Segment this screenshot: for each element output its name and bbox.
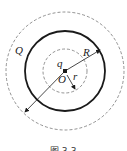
label-R: R <box>82 46 90 58</box>
label-Q: Q <box>15 44 23 56</box>
figure-caption: 图 3-3 <box>50 146 77 151</box>
concentric-circles-diagram: Q q O R r 图 3-3 <box>0 0 127 151</box>
label-q: q <box>57 57 63 69</box>
label-O: O <box>58 73 66 85</box>
label-r: r <box>73 70 78 82</box>
